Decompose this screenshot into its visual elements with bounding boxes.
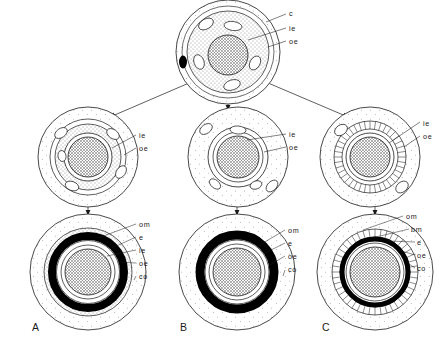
mid-right-cell: ie oe (320, 107, 432, 207)
arrow-top-to-mid-right (261, 80, 348, 117)
label-om-c: om (406, 212, 417, 221)
label-oe-midleft: oe (139, 144, 148, 153)
panel-letter-c: C (322, 321, 330, 333)
label-oe-c: oe (417, 251, 426, 260)
panel-c: om bm e oe co C (317, 212, 433, 333)
label-om-a: om (139, 220, 150, 229)
panel-letter-b: B (180, 321, 188, 333)
panel-letter-a: A (32, 321, 40, 333)
mid-center-cell: ie oe (188, 107, 298, 207)
arrow-top-to-mid-left (110, 80, 196, 117)
label-e-b: e (288, 239, 293, 248)
leader-c (266, 14, 286, 22)
panel-a: om e ie oe co A (30, 214, 150, 333)
label-bm-c: bm (411, 225, 422, 234)
panel-b: om e oe co B (179, 214, 299, 333)
label-oe-a: oe (139, 259, 148, 268)
label-e-a: e (139, 233, 144, 242)
label-oe-midcenter: oe (289, 143, 298, 152)
label-ie: ie (289, 24, 296, 33)
label-oe-b: oe (288, 252, 297, 261)
label-oe: oe (289, 37, 298, 46)
diagram-svg: c ie oe ie oe (0, 0, 448, 345)
label-co-a: co (139, 272, 148, 281)
label-co-c: co (417, 264, 426, 273)
label-e-c: e (417, 238, 422, 247)
label-oe-midright: oe (423, 132, 432, 141)
label-ie-midright: ie (423, 119, 430, 128)
label-ie-midcenter: ie (289, 130, 296, 139)
label-ie-a: ie (139, 246, 146, 255)
label-om-b: om (288, 226, 299, 235)
label-co-b: co (288, 265, 297, 274)
dark-granule-icon (179, 56, 187, 69)
label-ie-midleft: ie (139, 131, 146, 140)
mid-left-cell: ie oe (38, 107, 148, 207)
label-c: c (289, 9, 293, 18)
figure-canvas: c ie oe ie oe (0, 0, 448, 345)
